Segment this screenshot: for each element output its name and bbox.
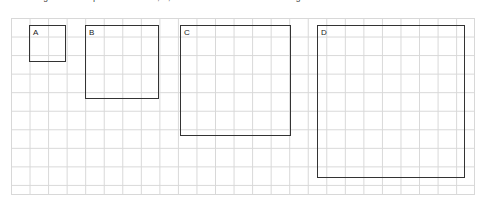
square-a[interactable]: A	[29, 25, 66, 62]
figure-canvas: Figure: Four squares labelled A, B, C an…	[0, 0, 484, 202]
square-b[interactable]: B	[85, 25, 159, 99]
square-b-label: B	[89, 28, 94, 38]
square-c-label: C	[184, 28, 190, 38]
square-d-label: D	[321, 28, 327, 38]
square-d[interactable]: D	[317, 25, 465, 178]
square-c[interactable]: C	[180, 25, 291, 136]
graph-paper-grid: A B C D	[11, 18, 475, 195]
square-a-label: A	[33, 28, 38, 38]
figure-caption: Figure: Four squares labelled A, B, C an…	[36, 0, 466, 4]
